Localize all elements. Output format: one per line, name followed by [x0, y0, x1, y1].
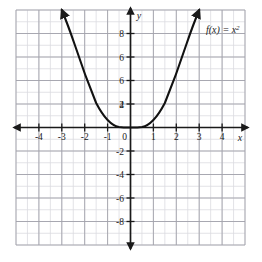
x-tick-label-4: 4: [220, 132, 225, 142]
function-label-exponent: 2: [236, 24, 240, 32]
origin-label: 0: [122, 132, 127, 142]
y-tick-label-6b: 6: [119, 53, 124, 63]
x-tick-label--2: -2: [81, 132, 89, 142]
y-tick-label--8: -8: [116, 217, 124, 227]
y-tick-label-2: 2: [119, 100, 124, 110]
x-tick-label--1: -1: [104, 132, 112, 142]
y-tick-label-6: 6: [119, 76, 124, 86]
x-tick-label--4: -4: [35, 132, 43, 142]
x-tick-label-2: 2: [174, 132, 179, 142]
axis-y-name: y: [136, 10, 142, 21]
y-tick-label--4: -4: [116, 170, 124, 180]
x-tick-label--3: -3: [58, 132, 66, 142]
function-label-text: f(x) = x: [206, 24, 237, 36]
y-tick-label--6: -6: [116, 194, 124, 204]
x-tick-label-3: 3: [197, 132, 202, 142]
parabola-graph-figure: -4 -3 -2 -1 0 1 2 3 4 8 6 4 6 2 -2 -4 -6…: [0, 0, 262, 262]
y-tick-label--2: -2: [116, 147, 124, 157]
y-tick-label-8: 8: [119, 29, 124, 39]
x-tick-label-1: 1: [151, 132, 156, 142]
axis-x-name: x: [237, 132, 243, 143]
function-label: f(x) = x2: [206, 24, 240, 36]
coordinate-plane: -4 -3 -2 -1 0 1 2 3 4 8 6 4 6 2 -2 -4 -6…: [0, 0, 262, 262]
